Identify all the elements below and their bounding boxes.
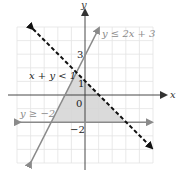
inequality-graph: y x 3 1 0 −2 y ≤ 2x + 3 x + y < 1 y ≥ −2 xyxy=(0,0,178,176)
x-axis-label: x xyxy=(170,89,176,100)
y-axis-label: y xyxy=(80,0,87,10)
tick-neg2: −2 xyxy=(70,124,85,135)
line-x-plus-y-lt-1 xyxy=(33,29,152,148)
tick-1: 1 xyxy=(78,78,84,89)
label-y-le-2x-plus-3: y ≤ 2x + 3 xyxy=(101,28,156,39)
tick-0: 0 xyxy=(76,98,82,109)
tick-3: 3 xyxy=(77,49,83,60)
label-y-ge-neg2: y ≥ −2 xyxy=(19,108,55,119)
label-x-plus-y-lt-1: x + y < 1 xyxy=(29,70,76,81)
